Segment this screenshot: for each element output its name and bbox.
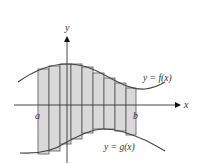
rectangle-3 [60,64,71,144]
curve-f-label: y = f(x) [142,73,172,84]
rectangle-8 [115,83,126,131]
rectangle-7 [104,78,115,129]
rectangle-4 [71,64,82,139]
curve-g-label: y = g(x) [103,142,135,153]
interval-end-label: b [133,110,138,121]
rectangle-5 [82,67,93,133]
y-axis-label: y [64,22,70,33]
y-axis-arrow-icon [64,36,70,42]
x-axis-arrow-icon [175,102,181,108]
area-between-curves-diagram: y x a b y = f(x) y = g(x) [0,0,199,164]
rectangle-6 [93,73,104,129]
interval-start-label: a [35,110,40,121]
rectangle-2 [49,66,60,151]
x-axis-label: x [183,99,189,110]
riemann-rectangles [38,64,136,154]
